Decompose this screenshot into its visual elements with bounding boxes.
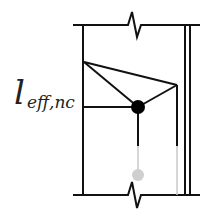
bottom-beam-line — [73, 182, 200, 208]
faded-node-joint — [132, 169, 144, 181]
node-joint — [131, 100, 145, 114]
top-beam-line — [73, 12, 200, 37]
frame-diagram — [0, 0, 211, 218]
